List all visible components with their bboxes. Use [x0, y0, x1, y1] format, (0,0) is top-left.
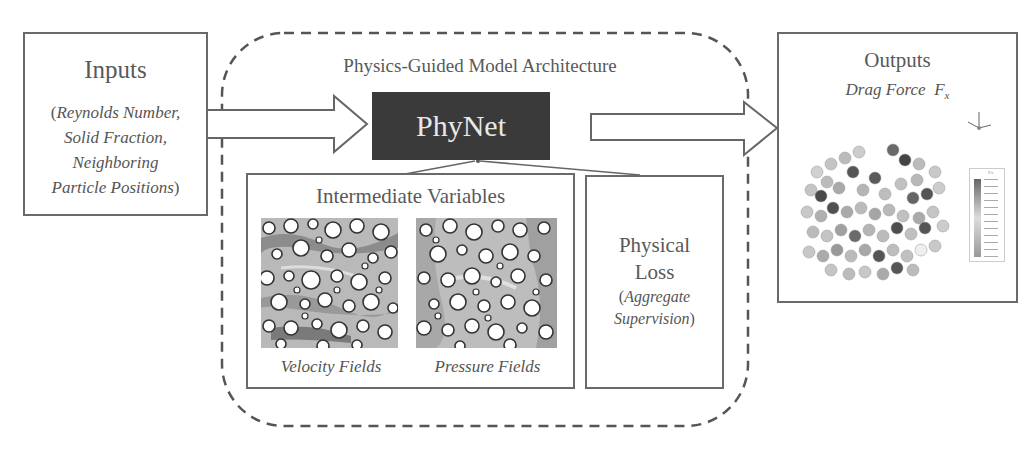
inputs-line-solid-fraction: Solid Fraction,	[25, 125, 206, 150]
physical-loss-line-physical: Physical	[587, 232, 722, 259]
outputs-box: Outputs Drag Force Fx	[777, 32, 1018, 303]
colorbar-ticks	[984, 179, 998, 257]
drag-force-subscript: x	[945, 89, 950, 101]
inputs-line-neighboring: Neighboring	[25, 150, 206, 175]
inputs-close-paren: )	[174, 178, 180, 197]
input-arrow	[207, 96, 367, 152]
loss-line-aggregate: Aggregate	[624, 288, 690, 305]
output-arrow	[591, 102, 777, 155]
particle-cloud-visualization	[797, 132, 957, 282]
intermediate-variables-box: Intermediate Variables	[246, 173, 575, 389]
drag-force-symbol: F	[934, 80, 944, 99]
inputs-description: (Reynolds Number, Solid Fraction, Neighb…	[25, 100, 206, 200]
physical-loss-line-loss: Loss	[587, 259, 722, 286]
velocity-fields-label: Velocity Fields	[256, 357, 406, 377]
inputs-line-reynolds: Reynolds Number,	[56, 103, 180, 122]
physical-loss-box: Physical Loss (Aggregate Supervision)	[585, 175, 724, 389]
colorbar-label: Fx	[988, 170, 993, 175]
intermediate-variables-title: Intermediate Variables	[248, 184, 573, 209]
colorbar-gradient	[974, 179, 981, 257]
pressure-field-graphic	[416, 218, 557, 348]
inputs-box: Inputs (Reynolds Number, Solid Fraction,…	[23, 32, 208, 216]
velocity-field-graphic	[261, 218, 398, 348]
loss-line-supervision: Supervision	[614, 310, 690, 327]
outputs-title: Outputs	[779, 48, 1016, 73]
pressure-field-image	[416, 218, 557, 348]
phynet-label: PhyNet	[372, 92, 550, 160]
phynet-box: PhyNet	[372, 92, 550, 160]
architecture-label: Physics-Guided Model Architecture	[240, 55, 720, 77]
velocity-field-image	[261, 218, 398, 348]
pressure-fields-label: Pressure Fields	[410, 357, 565, 377]
loss-close-paren: )	[690, 310, 695, 327]
colorbar: Fx	[969, 168, 1005, 262]
drag-force-label: Drag Force	[846, 80, 926, 99]
inputs-title: Inputs	[25, 56, 206, 84]
axis-triad-icon	[964, 108, 994, 138]
outputs-subtitle: Drag Force Fx	[779, 80, 1016, 101]
inputs-line-particle-positions: Particle Positions	[52, 178, 174, 197]
physical-loss-text: Physical Loss (Aggregate Supervision)	[587, 232, 722, 330]
